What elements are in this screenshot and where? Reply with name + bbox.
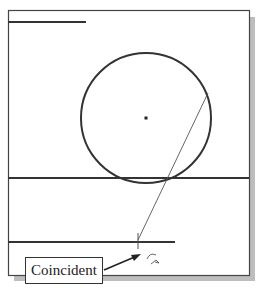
coincident-callout: Coincident	[25, 257, 103, 284]
graphics-window-frame	[9, 11, 250, 276]
sketch-canvas[interactable]	[0, 0, 260, 297]
callout-label: Coincident	[31, 262, 97, 279]
circle-center-point[interactable]	[145, 117, 148, 120]
